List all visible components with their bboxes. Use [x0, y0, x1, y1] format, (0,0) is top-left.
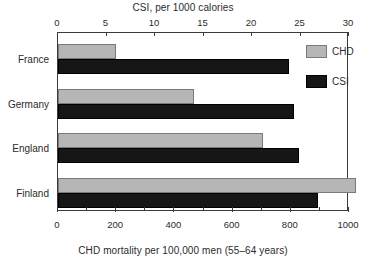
category-label: England [12, 143, 49, 154]
bar-csi [58, 104, 294, 119]
bottom-axis-tick-label: 0 [54, 219, 59, 230]
bar-chd [58, 133, 263, 148]
bottom-axis-tick-label: 800 [282, 219, 298, 230]
bars-layer [58, 33, 347, 210]
top-axis-tickmark [348, 32, 349, 36]
bottom-axis-tick-label: 400 [165, 219, 181, 230]
category-label: Finland [16, 187, 49, 198]
bottom-axis-title: CHD mortality per 100,000 men (55–64 yea… [0, 245, 366, 256]
top-axis-tick-label: 30 [343, 17, 354, 28]
bar-chd [58, 178, 356, 193]
top-axis-tick-label: 15 [197, 17, 208, 28]
legend-entry-csi: CSI [306, 74, 349, 88]
legend-swatch-chd [306, 45, 327, 58]
top-axis-tickmark [300, 32, 301, 36]
top-axis-tickmark [106, 32, 107, 36]
bar-csi [58, 193, 318, 208]
top-axis-tickmark [203, 32, 204, 36]
bottom-axis-tick-labels: 02004006008001000 [57, 219, 348, 232]
bottom-axis-tickmark [290, 207, 291, 212]
bottom-axis-minor-tickmark [319, 207, 320, 211]
bottom-axis-minor-tickmark [203, 207, 204, 211]
bar-csi [58, 148, 299, 163]
legend-label: CHD [332, 46, 354, 57]
chart-legend: CHDCSI [306, 44, 364, 96]
legend-entry-chd: CHD [306, 44, 354, 58]
bottom-axis-tick-label: 1000 [337, 219, 358, 230]
top-axis-tick-labels: 051015202530 [57, 17, 348, 30]
bottom-axis-minor-tickmark [86, 207, 87, 211]
category-label: France [18, 54, 49, 65]
bar-chd [58, 89, 194, 104]
bottom-axis-tickmark [173, 207, 174, 212]
legend-swatch-csi [306, 75, 327, 88]
top-axis-tick-label: 20 [246, 17, 257, 28]
chart-figure: CSI, per 1000 calories 051015202530 Fran… [0, 0, 366, 265]
category-label: Germany [8, 98, 49, 109]
bottom-axis-tickmark [232, 207, 233, 212]
top-axis-title: CSI, per 1000 calories [0, 2, 366, 13]
bar-chd [58, 44, 116, 59]
top-axis-tickmark [57, 32, 58, 36]
bottom-axis-tickmark [57, 207, 58, 212]
bar-csi [58, 59, 289, 74]
bottom-axis-tick-label: 200 [107, 219, 123, 230]
bottom-axis-tick-label: 600 [224, 219, 240, 230]
top-axis-tick-label: 0 [54, 17, 59, 28]
bottom-axis-minor-tickmark [261, 207, 262, 211]
category-axis-labels: FranceGermanyEnglandFinland [0, 32, 53, 211]
top-axis-tick-label: 25 [294, 17, 305, 28]
bottom-axis-tickmark [348, 207, 349, 212]
top-axis-tickmark [251, 32, 252, 36]
bottom-axis-tickmark [115, 207, 116, 212]
top-axis-tickmark [154, 32, 155, 36]
top-axis-tick-label: 10 [149, 17, 160, 28]
top-axis-tick-label: 5 [103, 17, 108, 28]
legend-label: CSI [332, 76, 349, 87]
bottom-axis-minor-tickmark [144, 207, 145, 211]
